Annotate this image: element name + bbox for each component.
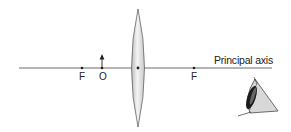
diagram-canvas (0, 0, 291, 132)
principal-axis-label: Principal axis (214, 55, 273, 66)
lens-center-point (137, 67, 140, 70)
focus-right-point (193, 67, 196, 70)
focus-right-label: F (191, 72, 197, 82)
focus-left-label: F (79, 72, 85, 82)
eye-icon (238, 77, 278, 116)
focus-left-point (81, 67, 84, 70)
lens-diagram: F O F Principal axis (0, 0, 291, 132)
object-arrow-icon (100, 54, 105, 67)
object-base-point (101, 67, 104, 70)
object-label: O (99, 72, 107, 82)
